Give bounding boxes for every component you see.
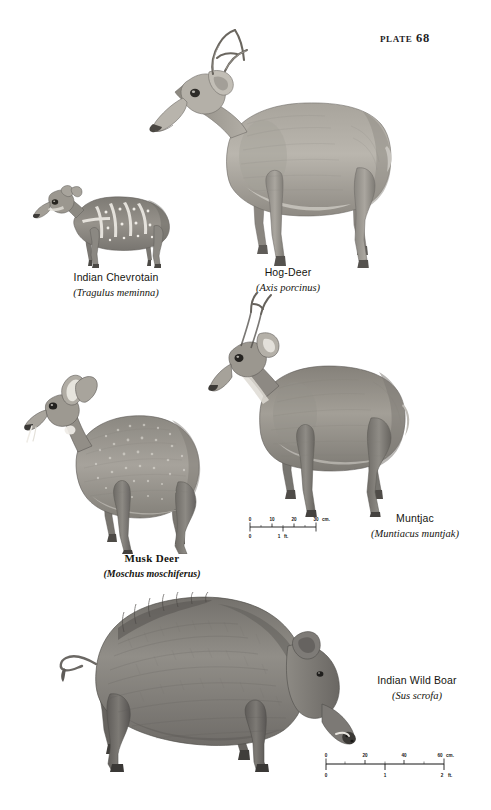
caption-musk-deer: Musk Deer (Moschus moschiferus) (60, 551, 244, 580)
figure-muntjac (207, 292, 422, 517)
caption-common-name: Indian Wild Boar (352, 674, 482, 688)
scale-bar-upper: 0 10 20 30 cm. (246, 514, 338, 546)
scale-tick-ft-0: 0 (249, 534, 252, 539)
scale-tick-ft-0: 0 (325, 773, 328, 778)
caption-common-name: Musk Deer (60, 551, 244, 566)
caption-scientific-name: (Sus scrofa) (352, 689, 482, 703)
scale-tick-ft-1: 1 (278, 534, 281, 539)
scale-tick-cm-40: 40 (401, 753, 407, 758)
figure-indian-wild-boar (58, 592, 358, 772)
scale-tick-cm-10: 10 (269, 517, 275, 522)
scale-unit-ft: ft. (448, 773, 452, 778)
scale-tick-ft-1: 1 (384, 773, 387, 778)
scale-unit-cm: cm. (322, 517, 330, 522)
caption-common-name: Indian Chevrotain (60, 271, 172, 285)
plate-page: Plate 68 (0, 0, 491, 810)
scale-tick-cm-0: 0 (325, 753, 328, 758)
scale-tick-cm-0: 0 (249, 517, 252, 522)
scale-tick-cm-20: 20 (362, 753, 368, 758)
figure-musk-deer (22, 374, 212, 554)
caption-indian-wild-boar: Indian Wild Boar (Sus scrofa) (352, 674, 482, 703)
scale-bar-lower: 0 20 40 60 cm. (322, 749, 472, 785)
scale-unit-cm: cm. (446, 753, 454, 758)
caption-common-name: Hog-Deer (233, 266, 343, 280)
scale-unit-ft: ft. (284, 534, 288, 539)
scale-tick-cm-30: 30 (313, 517, 319, 522)
scale-tick-cm-20: 20 (291, 517, 297, 522)
caption-scientific-name: (Moschus moschiferus) (60, 567, 244, 580)
caption-common-name: Muntjac (345, 512, 485, 526)
scale-tick-ft-2: 2 (441, 773, 444, 778)
caption-indian-chevrotain: Indian Chevrotain (Tragulus meminna) (60, 271, 172, 300)
scale-tick-cm-60: 60 (437, 753, 443, 758)
caption-scientific-name: (Tragulus meminna) (60, 286, 172, 300)
figure-indian-chevrotain (32, 176, 192, 268)
caption-hog-deer: Hog-Deer (Axis porcinus) (233, 266, 343, 295)
caption-muntjac: Muntjac (Muntiacus muntjak) (345, 512, 485, 541)
caption-scientific-name: (Muntiacus muntjak) (345, 527, 485, 541)
